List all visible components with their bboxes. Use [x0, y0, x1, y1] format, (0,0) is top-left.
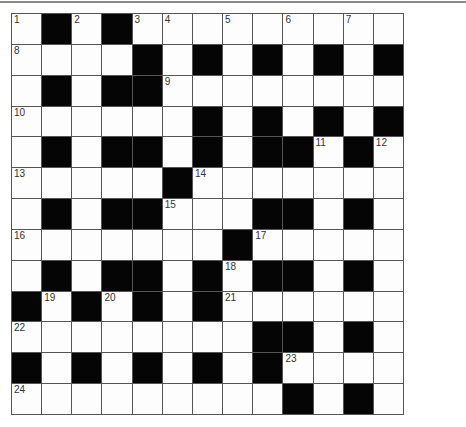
answer-cell[interactable]	[314, 76, 343, 106]
answer-cell[interactable]	[72, 107, 101, 137]
answer-cell[interactable]: 13	[12, 168, 41, 198]
answer-cell[interactable]	[374, 261, 403, 291]
answer-cell[interactable]	[314, 322, 343, 352]
answer-cell[interactable]	[223, 137, 252, 167]
answer-cell[interactable]	[72, 76, 101, 106]
answer-cell[interactable]	[314, 230, 343, 260]
answer-cell[interactable]	[374, 14, 403, 44]
answer-cell[interactable]	[344, 292, 373, 322]
answer-cell[interactable]: 23	[283, 353, 312, 383]
answer-cell[interactable]	[283, 292, 312, 322]
answer-cell[interactable]	[163, 322, 192, 352]
answer-cell[interactable]	[193, 14, 222, 44]
answer-cell[interactable]	[314, 384, 343, 414]
answer-cell[interactable]: 9	[163, 76, 192, 106]
answer-cell[interactable]	[374, 322, 403, 352]
answer-cell[interactable]	[133, 107, 162, 137]
answer-cell[interactable]	[72, 45, 101, 75]
answer-cell[interactable]	[223, 107, 252, 137]
answer-cell[interactable]	[12, 261, 41, 291]
answer-cell[interactable]	[223, 199, 252, 229]
answer-cell[interactable]	[283, 230, 312, 260]
answer-cell[interactable]: 7	[344, 14, 373, 44]
answer-cell[interactable]: 19	[42, 292, 71, 322]
answer-cell[interactable]	[283, 107, 312, 137]
answer-cell[interactable]	[42, 45, 71, 75]
answer-cell[interactable]	[314, 14, 343, 44]
answer-cell[interactable]	[72, 137, 101, 167]
answer-cell[interactable]: 16	[12, 230, 41, 260]
answer-cell[interactable]	[12, 76, 41, 106]
answer-cell[interactable]	[314, 353, 343, 383]
answer-cell[interactable]: 24	[12, 384, 41, 414]
answer-cell[interactable]	[223, 353, 252, 383]
answer-cell[interactable]: 1	[12, 14, 41, 44]
answer-cell[interactable]	[314, 261, 343, 291]
answer-cell[interactable]	[102, 384, 131, 414]
answer-cell[interactable]	[133, 322, 162, 352]
answer-cell[interactable]: 14	[193, 168, 222, 198]
answer-cell[interactable]	[253, 14, 282, 44]
answer-cell[interactable]	[344, 353, 373, 383]
answer-cell[interactable]: 21	[223, 292, 252, 322]
answer-cell[interactable]	[163, 137, 192, 167]
answer-cell[interactable]	[42, 168, 71, 198]
answer-cell[interactable]	[283, 76, 312, 106]
answer-cell[interactable]	[374, 168, 403, 198]
answer-cell[interactable]	[133, 168, 162, 198]
answer-cell[interactable]: 17	[253, 230, 282, 260]
answer-cell[interactable]	[314, 292, 343, 322]
answer-cell[interactable]	[72, 199, 101, 229]
answer-cell[interactable]	[193, 199, 222, 229]
answer-cell[interactable]: 18	[223, 261, 252, 291]
answer-cell[interactable]	[163, 384, 192, 414]
answer-cell[interactable]	[344, 76, 373, 106]
answer-cell[interactable]: 6	[283, 14, 312, 44]
answer-cell[interactable]	[253, 292, 282, 322]
answer-cell[interactable]	[102, 322, 131, 352]
answer-cell[interactable]	[163, 230, 192, 260]
answer-cell[interactable]	[223, 45, 252, 75]
answer-cell[interactable]	[42, 384, 71, 414]
answer-cell[interactable]	[163, 45, 192, 75]
answer-cell[interactable]	[193, 322, 222, 352]
answer-cell[interactable]	[133, 384, 162, 414]
answer-cell[interactable]: 12	[374, 137, 403, 167]
answer-cell[interactable]: 3	[133, 14, 162, 44]
answer-cell[interactable]	[193, 384, 222, 414]
answer-cell[interactable]	[344, 107, 373, 137]
answer-cell[interactable]	[42, 107, 71, 137]
answer-cell[interactable]: 15	[163, 199, 192, 229]
answer-cell[interactable]: 2	[72, 14, 101, 44]
answer-cell[interactable]	[72, 168, 101, 198]
answer-cell[interactable]: 11	[314, 137, 343, 167]
answer-cell[interactable]: 20	[102, 292, 131, 322]
answer-cell[interactable]	[374, 292, 403, 322]
answer-cell[interactable]	[223, 322, 252, 352]
answer-cell[interactable]	[163, 292, 192, 322]
answer-cell[interactable]	[102, 230, 131, 260]
answer-cell[interactable]	[283, 45, 312, 75]
answer-cell[interactable]	[314, 168, 343, 198]
answer-cell[interactable]	[72, 322, 101, 352]
answer-cell[interactable]	[163, 353, 192, 383]
answer-cell[interactable]	[12, 199, 41, 229]
answer-cell[interactable]	[102, 45, 131, 75]
answer-cell[interactable]	[253, 384, 282, 414]
answer-cell[interactable]	[374, 384, 403, 414]
answer-cell[interactable]	[283, 168, 312, 198]
answer-cell[interactable]	[374, 199, 403, 229]
answer-cell[interactable]	[253, 168, 282, 198]
answer-cell[interactable]	[102, 168, 131, 198]
answer-cell[interactable]: 8	[12, 45, 41, 75]
answer-cell[interactable]	[314, 199, 343, 229]
answer-cell[interactable]	[102, 353, 131, 383]
answer-cell[interactable]	[374, 353, 403, 383]
answer-cell[interactable]	[223, 168, 252, 198]
answer-cell[interactable]	[223, 384, 252, 414]
answer-cell[interactable]: 22	[12, 322, 41, 352]
answer-cell[interactable]: 4	[163, 14, 192, 44]
answer-cell[interactable]: 10	[12, 107, 41, 137]
answer-cell[interactable]	[72, 230, 101, 260]
answer-cell[interactable]	[72, 261, 101, 291]
